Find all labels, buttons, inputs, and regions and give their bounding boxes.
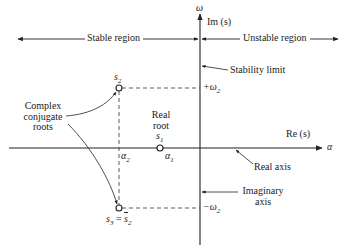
real-axis-leader bbox=[236, 150, 253, 164]
re-s-label: Re (s) bbox=[286, 129, 310, 140]
imaginary-axis-label: Imaginary axis bbox=[238, 186, 288, 207]
complex-line3: roots bbox=[18, 122, 68, 133]
s1-label: s1 bbox=[156, 131, 163, 144]
alpha1-label: α1 bbox=[165, 151, 174, 164]
unstable-region-label: Unstable region bbox=[243, 33, 307, 44]
root-s2 bbox=[116, 85, 122, 91]
complex-conjugate-roots-label: Complex conjugate roots bbox=[18, 101, 68, 133]
complex-roots-leader-upper bbox=[66, 92, 116, 116]
complex-roots-leader-lower bbox=[68, 124, 117, 204]
root-s3 bbox=[116, 205, 122, 211]
plus-omega2-label: +ω2 bbox=[203, 82, 220, 95]
stability-limit-leader bbox=[202, 66, 228, 70]
stable-region-label: Stable region bbox=[87, 33, 140, 44]
real-root-label: Real root bbox=[146, 110, 176, 131]
real-root-line2: root bbox=[146, 121, 176, 132]
alpha-axis-symbol: α bbox=[327, 142, 332, 153]
real-root-line1: Real bbox=[146, 110, 176, 121]
stability-limit-label: Stability limit bbox=[230, 65, 285, 76]
root-s1 bbox=[157, 145, 163, 151]
alpha2-label: α2 bbox=[121, 151, 130, 164]
s3-label: s3 = s2 bbox=[106, 214, 131, 227]
imaginary-axis-line1: Imaginary bbox=[238, 186, 288, 197]
complex-line1: Complex bbox=[18, 101, 68, 112]
minus-omega2-label: −ω2 bbox=[203, 202, 220, 215]
omega-axis-symbol: ω bbox=[196, 3, 203, 14]
s2-label: s2 bbox=[114, 72, 121, 85]
im-s-label: Im (s) bbox=[207, 17, 231, 28]
imaginary-axis-line2: axis bbox=[238, 197, 288, 208]
real-axis-label: Real axis bbox=[254, 162, 291, 173]
